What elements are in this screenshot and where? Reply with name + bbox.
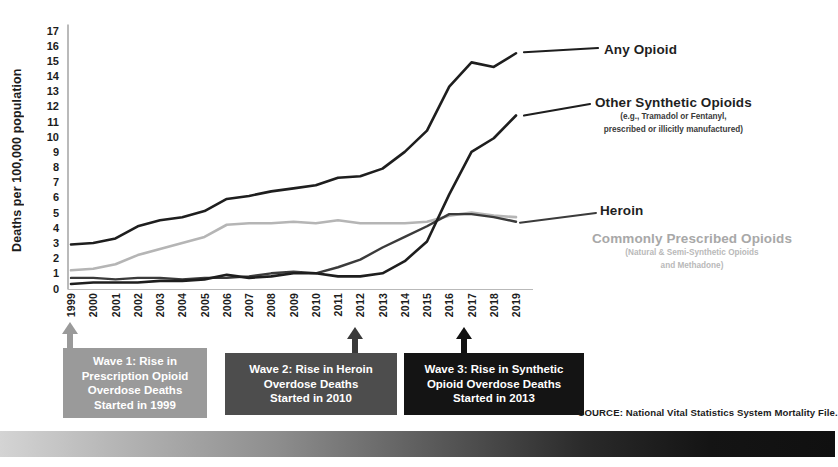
x-tick-2010: 2010: [310, 293, 322, 317]
x-tick-2015: 2015: [421, 293, 433, 317]
x-tick-2016: 2016: [443, 293, 455, 317]
series-label-any-opioid-text: Any Opioid: [604, 42, 677, 57]
x-tick-2009: 2009: [288, 293, 300, 317]
x-tick-2011: 2011: [332, 293, 344, 317]
series-label-other-synthetic-opioids: Other Synthetic Opioids (e.g., Tramadol …: [595, 95, 752, 135]
x-tick-2018: 2018: [488, 293, 500, 317]
x-tick-2002: 2002: [132, 293, 144, 317]
series-line-heroin: [71, 214, 516, 279]
source-note: SOURCE: National Vital Statistics System…: [578, 407, 838, 418]
wave-1-box: Wave 1: Rise inPrescription OpioidOverdo…: [63, 348, 207, 418]
series-label-other-synthetic-opioids-text: Other Synthetic Opioids: [595, 95, 752, 110]
bottom-gradient-bar: [0, 431, 835, 457]
x-tick-2019: 2019: [510, 293, 522, 317]
series-sublabel-commonly-prescribed-opioids-line2: and Methadone): [592, 261, 792, 272]
x-tick-2008: 2008: [265, 293, 277, 317]
wave-2-line-1: Wave 2: Rise in Heroin: [249, 362, 373, 377]
x-tick-2006: 2006: [221, 293, 233, 317]
wave-2-line-2: Overdose Deaths: [249, 377, 373, 392]
series-sublabel-commonly-prescribed-opioids-line1: (Natural & Semi-Synthetic Opioids: [592, 248, 792, 259]
wave-1-line-2: Prescription Opioid: [82, 369, 189, 384]
series-label-commonly-prescribed-opioids: Commonly Prescribed Opioids (Natural & S…: [592, 231, 792, 271]
series-sublabel-other-synthetic-opioids-line2: prescribed or illicitly manufactured): [595, 125, 752, 136]
series-line-commonly-prescribed-opioids: [71, 213, 516, 271]
x-tick-2012: 2012: [354, 293, 366, 317]
wave-2-box: Wave 2: Rise in HeroinOverdose DeathsSta…: [225, 353, 397, 415]
series-label-heroin: Heroin: [600, 203, 643, 218]
x-tick-1999: 1999: [65, 293, 77, 317]
series-line-other-synthetic-opioids: [71, 115, 516, 283]
leader-other-synthetic-opioids: [524, 104, 590, 115]
series-sublabel-other-synthetic-opioids-line1: (e.g., Tramadol or Fentanyl,: [595, 112, 752, 123]
x-tick-2017: 2017: [466, 293, 478, 317]
x-tick-2007: 2007: [243, 293, 255, 317]
x-tick-2001: 2001: [110, 293, 122, 317]
wave-3-line-2: Opioid Overdose Deaths: [425, 377, 564, 392]
x-tick-2013: 2013: [377, 293, 389, 317]
x-tick-2000: 2000: [87, 293, 99, 317]
series-label-commonly-prescribed-opioids-text: Commonly Prescribed Opioids: [592, 231, 792, 246]
leader-heroin: [520, 213, 596, 223]
wave-3-line-1: Wave 3: Rise in Synthetic: [425, 362, 564, 377]
x-tick-2014: 2014: [399, 293, 411, 317]
x-tick-2005: 2005: [199, 293, 211, 317]
series-label-heroin-text: Heroin: [600, 203, 643, 218]
wave-1-line-3: Overdose Deaths: [82, 383, 189, 398]
wave-3-line-3: Started in 2013: [425, 391, 564, 406]
series-label-any-opioid: Any Opioid: [604, 42, 677, 57]
x-tick-2004: 2004: [176, 293, 188, 317]
wave-1-line-1: Wave 1: Rise in: [82, 354, 189, 369]
wave-1-line-4: Started in 1999: [82, 398, 189, 413]
wave-2-line-3: Started in 2010: [249, 391, 373, 406]
x-tick-2003: 2003: [154, 293, 166, 317]
leader-any-opioid: [524, 48, 598, 52]
wave-3-box: Wave 3: Rise in SyntheticOpioid Overdose…: [404, 353, 584, 415]
